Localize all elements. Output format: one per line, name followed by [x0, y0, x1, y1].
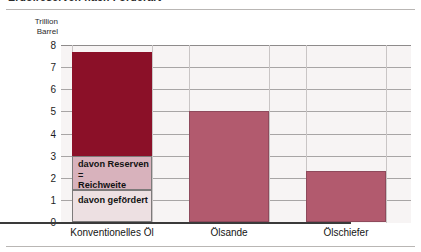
bar-oelsande[interactable]	[189, 111, 269, 222]
y-tick-7: 7	[6, 62, 56, 73]
y-tick-4: 4	[6, 129, 56, 140]
bar-segment-gefoerdert-label: davon gefördert	[72, 190, 152, 222]
x-axis-baseline	[0, 222, 351, 224]
bar-konventionelles-oel[interactable]: davon Reserven = Reichweite - 50 Jahre d…	[72, 52, 152, 222]
y-tick-1: 1	[6, 195, 56, 206]
y-tick-6: 6	[6, 84, 56, 95]
column-separator-4	[269, 45, 270, 223]
chart-title-cropped: Erdölreserven nach Förderart	[8, 0, 248, 5]
footer-divider	[6, 246, 415, 247]
header-divider	[6, 9, 415, 10]
y-tick-3: 3	[6, 151, 56, 162]
y-axis-unit-label: Trillion Barrel	[6, 17, 58, 36]
bar-segment-reserven-label: davon Reserven = Reichweite - 50 Jahre	[72, 156, 152, 190]
column-separator-2	[152, 45, 153, 223]
column-separator-6	[386, 45, 387, 223]
chart-figure: Erdölreserven nach Förderart Trillion Ba…	[0, 0, 421, 252]
x-label-oelschiefer: Ölschiefer	[296, 227, 396, 238]
y-tick-2: 2	[6, 173, 56, 184]
y-tick-8: 8	[6, 40, 56, 51]
bar-oelschiefer[interactable]	[306, 171, 386, 222]
bar-segment-gesamt	[72, 52, 152, 156]
x-label-konventionelles-oel: Konventionelles Öl	[62, 227, 162, 238]
y-tick-5: 5	[6, 106, 56, 117]
gridline-8	[61, 45, 411, 46]
x-label-oelsande: Ölsande	[179, 227, 279, 238]
